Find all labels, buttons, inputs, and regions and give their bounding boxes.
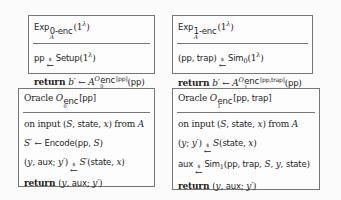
oracle-1-enc-body: on input (S, state, x) from A (y; y′)$←S…: [173, 113, 319, 196]
experiment-0-enc-body: pp$←Setup(1λ) return b′ ← AOenc0[pp](pp): [29, 44, 154, 92]
code-line: on input (S, state, x) from A: [178, 115, 314, 134]
code-line: (pp, trap)$←Sim0(1λ): [178, 46, 307, 71]
oracle-0-enc-box: Oracle Oenc0[pp] on input (S, state, x) …: [18, 88, 155, 187]
code-line: aux$←Sim1(pp, trap, S, y, state): [178, 155, 314, 177]
oracle-0-enc-title: Oracle Oenc0[pp]: [19, 89, 154, 112]
code-line: (y, aux; y′)$←S′(state, x): [24, 153, 149, 174]
experiment-1-enc-body: (pp, trap)$←Sim0(1λ) return b′ ← AOenc1[…: [173, 44, 312, 93]
code-line: return (y, aux; y′): [24, 174, 149, 193]
oracle-1-enc-box: Oracle Oenc1[pp, trap] on input (S, stat…: [172, 88, 320, 190]
experiment-0-enc-title: Exp0-encA(1λ): [29, 16, 154, 43]
experiment-1-enc-box: Exp1-encA(1λ) (pp, trap)$←Sim0(1λ) retur…: [172, 15, 313, 74]
paper-figure-page: { "figure": { "colors": { "page_bg": "#f…: [0, 0, 341, 200]
oracle-0-enc-body: on input (S, state, x) from A S′ ← Encod…: [19, 113, 154, 193]
code-line: S′ ← Encode(pp, S): [24, 134, 149, 153]
code-line: on input (S, state, x) from A: [24, 115, 149, 134]
oracle-1-enc-title: Oracle Oenc1[pp, trap]: [173, 89, 319, 112]
code-line: pp$←Setup(1λ): [34, 46, 149, 70]
code-line: return (y, aux; y′): [178, 177, 314, 196]
experiment-0-enc-box: Exp0-encA(1λ) pp$←Setup(1λ) return b′ ← …: [28, 15, 155, 74]
code-line: (y; y′)$←S(state, x): [178, 134, 314, 155]
experiment-1-enc-title: Exp1-encA(1λ): [173, 16, 312, 43]
